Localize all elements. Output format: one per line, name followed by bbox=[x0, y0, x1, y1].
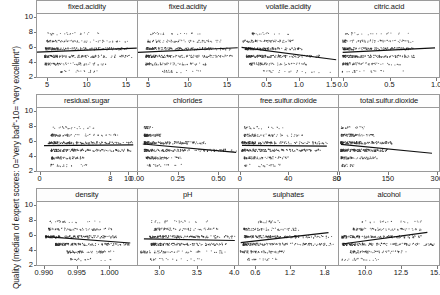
scatter-panel[interactable]: fixed.acidity bbox=[137, 0, 238, 78]
plot-area bbox=[239, 108, 339, 172]
x-tick-label: 1.0 bbox=[431, 81, 440, 88]
x-tick-label: 0.50 bbox=[211, 175, 225, 182]
y-tick-label: 2 bbox=[29, 73, 33, 81]
scatter-panel[interactable]: free.sulfur.dioxide bbox=[238, 94, 339, 172]
x-tick-label: 0.990 bbox=[35, 269, 54, 276]
panel-strip-header: density bbox=[37, 189, 137, 202]
panel-grid: 246810fixed.acidityfixed.acidityvolatile… bbox=[16, 0, 440, 295]
y-tick-label: 2 bbox=[29, 261, 33, 269]
x-tick-label: 1.5 bbox=[326, 81, 336, 88]
plot-area bbox=[138, 14, 238, 78]
x-axis-cell: 0.61.21.8 bbox=[238, 266, 339, 282]
panel-strip-header: residual.sugar bbox=[37, 95, 137, 108]
x-tick-label: 0.25 bbox=[171, 175, 185, 182]
x-axis-cell: 0810 bbox=[36, 172, 137, 188]
x-tick-label: 0 bbox=[337, 175, 341, 182]
x-tick-label: 150 bbox=[382, 175, 394, 182]
x-tick-label: 40 bbox=[284, 175, 292, 182]
panels: residual.sugarchloridesfree.sulfur.dioxi… bbox=[36, 94, 440, 172]
panel-row: 246810fixed.acidityfixed.acidityvolatile… bbox=[16, 0, 440, 94]
x-tick-label: 10 bbox=[82, 81, 90, 88]
y-axis-ticks: 246810 bbox=[16, 0, 36, 78]
y-tick-label: 6 bbox=[29, 231, 33, 239]
y-axis-ticks: 246810 bbox=[16, 94, 36, 172]
panel-row: 246810densitypHsulphatesalcohol0.9900.99… bbox=[16, 188, 440, 282]
x-axis-cell: 0.000.250.50 bbox=[137, 172, 238, 188]
x-axis-cell: 3.03.54.0 bbox=[137, 266, 238, 282]
panel-strip-header: fixed.acidity bbox=[37, 1, 137, 14]
y-tick-label: 10 bbox=[25, 201, 33, 209]
x-tick-label: 15 bbox=[223, 81, 231, 88]
panels: fixed.acidityfixed.acidityvolatile.acidi… bbox=[36, 0, 440, 78]
y-tick-label: 4 bbox=[29, 58, 33, 66]
plot-area bbox=[138, 202, 238, 266]
scatter-panel[interactable]: fixed.acidity bbox=[36, 0, 137, 78]
x-tick-label: 15.0 bbox=[430, 269, 440, 276]
panel-title: free.sulfur.dioxide bbox=[260, 97, 317, 105]
x-tick-label: 12.5 bbox=[394, 269, 408, 276]
x-axis: 08100.000.250.50040800150300 bbox=[36, 172, 440, 188]
scatter-panel[interactable]: sulphates bbox=[238, 188, 339, 266]
scatter-panel[interactable]: residual.sugar bbox=[36, 94, 137, 172]
scatter-panel[interactable]: volatile.acidity bbox=[238, 0, 339, 78]
x-tick-label: 3.5 bbox=[192, 269, 202, 276]
panel-title: volatile.acidity bbox=[266, 3, 311, 11]
panel-strip-header: total.sulfur.dioxide bbox=[339, 95, 439, 108]
plot-area bbox=[37, 202, 137, 266]
panel-title: citric.acid bbox=[374, 3, 404, 11]
x-tick-label: 10 bbox=[183, 81, 191, 88]
y-tick-label: 6 bbox=[29, 137, 33, 145]
plot-area bbox=[239, 202, 339, 266]
x-tick-label: 1.0 bbox=[294, 81, 304, 88]
x-axis: 0.9900.9951.0003.03.54.00.61.21.810.012.… bbox=[36, 266, 440, 282]
chart-canvas: Quality (median of expert scores: 0="ver… bbox=[0, 0, 440, 295]
scatter-panel[interactable]: pH bbox=[137, 188, 238, 266]
x-tick-label: 1.2 bbox=[285, 269, 295, 276]
x-tick-label: 5 bbox=[45, 81, 49, 88]
x-tick-label: 8 bbox=[108, 175, 112, 182]
x-axis-cell: 10.012.515.0 bbox=[339, 266, 440, 282]
scatter-panel[interactable]: citric.acid bbox=[338, 0, 440, 78]
x-tick-label: 0.5 bbox=[261, 81, 271, 88]
plot-area bbox=[239, 14, 339, 78]
panel-strip-header: citric.acid bbox=[339, 1, 439, 14]
panel-strip-header: sulphates bbox=[239, 189, 339, 202]
y-axis-ticks: 246810 bbox=[16, 188, 36, 266]
x-axis-cell: 0.9900.9951.000 bbox=[36, 266, 137, 282]
x-axis-cell: 51015 bbox=[36, 78, 137, 94]
panel-strip-header: pH bbox=[138, 189, 238, 202]
plot-area bbox=[37, 108, 137, 172]
x-tick-label: 15 bbox=[122, 81, 130, 88]
panel-title: total.sulfur.dioxide bbox=[360, 97, 418, 105]
y-tick-label: 10 bbox=[25, 107, 33, 115]
y-tick-label: 6 bbox=[29, 43, 33, 51]
x-axis-cell: 51015 bbox=[137, 78, 238, 94]
x-tick-label: 1.8 bbox=[319, 269, 329, 276]
y-tick-label: 4 bbox=[29, 152, 33, 160]
y-tick-label: 8 bbox=[29, 216, 33, 224]
y-tick-label: 4 bbox=[29, 246, 33, 254]
x-tick-label: 0.995 bbox=[67, 269, 86, 276]
x-axis-cell: 0150300 bbox=[339, 172, 440, 188]
panel-strip-header: alcohol bbox=[339, 189, 439, 202]
x-tick-label: 0.0 bbox=[338, 81, 348, 88]
panel-title: density bbox=[75, 191, 98, 199]
plot-area bbox=[339, 202, 439, 266]
scatter-panel[interactable]: density bbox=[36, 188, 137, 266]
x-tick-label: 0.6 bbox=[250, 269, 260, 276]
panel-strip-header: free.sulfur.dioxide bbox=[239, 95, 339, 108]
x-tick-label: 0 bbox=[238, 175, 242, 182]
panel-title: fixed.acidity bbox=[68, 3, 106, 11]
x-tick-label: 1.000 bbox=[100, 269, 119, 276]
x-tick-label: 0.5 bbox=[384, 81, 394, 88]
x-axis: 51015510150.51.01.50.00.51.0 bbox=[36, 78, 440, 94]
plot-area bbox=[339, 108, 439, 172]
scatter-panel[interactable]: alcohol bbox=[338, 188, 440, 266]
panels: densitypHsulphatesalcohol bbox=[36, 188, 440, 266]
scatter-panel[interactable]: chlorides bbox=[137, 94, 238, 172]
y-axis-label: Quality (median of expert scores: 0="ver… bbox=[0, 0, 16, 295]
scatter-panel[interactable]: total.sulfur.dioxide bbox=[338, 94, 440, 172]
x-tick-label: 5 bbox=[146, 81, 150, 88]
panel-strip-header: fixed.acidity bbox=[138, 1, 238, 14]
y-tick-label: 8 bbox=[29, 28, 33, 36]
